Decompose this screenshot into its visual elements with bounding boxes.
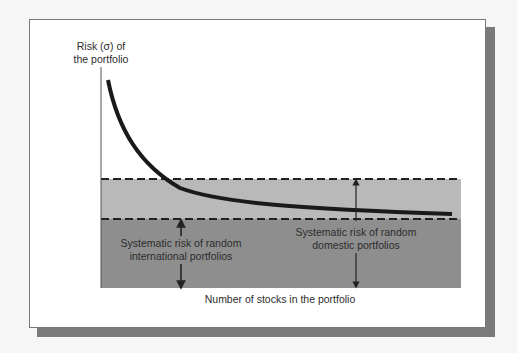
y-axis-label-line2: the portfolio xyxy=(58,53,144,66)
international-annotation-line1: Systematic risk of random xyxy=(111,237,251,250)
international-annotation: Systematic risk of random international … xyxy=(111,237,251,263)
x-axis-label: Number of stocks in the portfolio xyxy=(200,293,360,306)
domestic-annotation-line1: Systematic risk of random xyxy=(286,226,426,239)
international-annotation-line2: international portfolios xyxy=(111,250,251,263)
domestic-annotation: Systematic risk of random domestic portf… xyxy=(286,226,426,252)
y-axis-label-line1: Risk (σ) of xyxy=(58,40,144,53)
domestic-annotation-line2: domestic portfolios xyxy=(286,239,426,252)
y-axis-label: Risk (σ) of the portfolio xyxy=(58,40,144,66)
